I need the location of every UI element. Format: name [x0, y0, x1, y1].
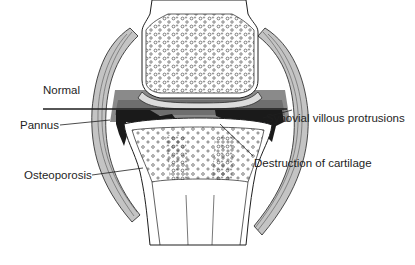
upper-bone [138, 0, 262, 109]
label-osteoporosis: Osteoporosis [24, 170, 92, 182]
joint-diagram [0, 0, 415, 265]
lower-bone [124, 118, 272, 245]
label-synovial-villous-protrusions: Synovial villous protrusions [266, 113, 405, 125]
label-destruction-of-cartilage: Destruction of cartilage [254, 158, 372, 170]
label-pannus: Pannus [20, 120, 59, 132]
label-normal: Normal [43, 85, 80, 97]
